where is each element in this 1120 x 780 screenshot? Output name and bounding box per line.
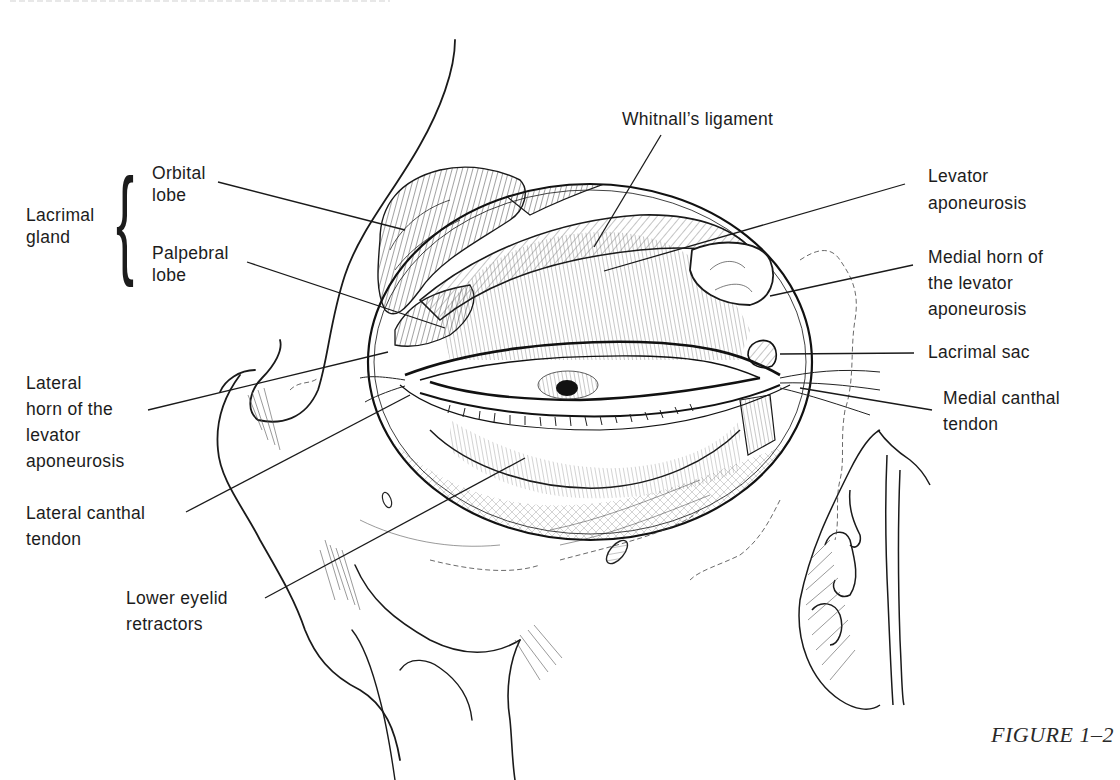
lacrimal-gland-brace: {	[116, 160, 134, 280]
face-outline	[217, 40, 520, 780]
canthal-tendons	[360, 370, 880, 415]
figure-canvas: { Lacrimal gland Orbital lobe Palpebral …	[0, 0, 1120, 780]
nose-shading	[806, 540, 855, 680]
figure-caption: FIGURE 1–2	[991, 722, 1114, 748]
leader-lower-eyelid-retractors	[265, 458, 525, 598]
label-levator-aponeurosis: Levator aponeurosis	[928, 163, 1027, 217]
leader-medial-horn	[770, 265, 913, 296]
label-lateral-canthal-tendon: Lateral canthal tendon	[26, 500, 145, 552]
leader-lateral-canthal-tendon	[186, 395, 410, 512]
iris	[538, 371, 598, 399]
label-lateral-horn: Lateral horn of the levator aponeurosis	[26, 370, 125, 474]
lacrimal-sac-shape	[748, 341, 776, 368]
pupil	[556, 380, 578, 396]
label-medial-canthal-tendon: Medial canthal tendon	[943, 385, 1060, 437]
leader-lateral-horn	[148, 352, 388, 410]
label-whitnalls-ligament: Whitnall’s ligament	[622, 108, 773, 130]
leader-lacrimal-sac	[780, 353, 914, 354]
label-medial-horn: Medial horn of the levator aponeurosis	[928, 244, 1043, 322]
label-lacrimal-sac: Lacrimal sac	[928, 341, 1030, 363]
label-lacrimal-gland: Lacrimal gland	[26, 204, 95, 248]
label-palpebral-lobe: Palpebral lobe	[152, 242, 229, 286]
label-orbital-lobe: Orbital lobe	[152, 162, 206, 206]
leader-orbital-lobe	[218, 182, 405, 230]
label-lower-eyelid-retractors: Lower eyelid retractors	[126, 585, 228, 637]
nose-outline	[799, 430, 930, 709]
